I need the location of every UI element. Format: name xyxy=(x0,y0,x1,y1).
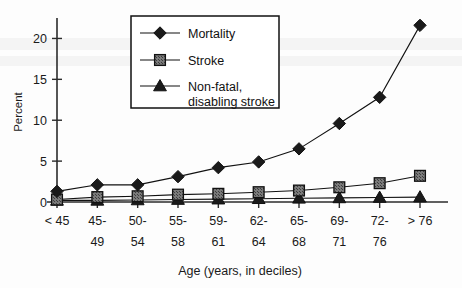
data-point-square xyxy=(173,189,184,200)
y-tick-label: 10 xyxy=(33,114,47,128)
data-point-triangle xyxy=(373,191,386,202)
y-tick-label: 5 xyxy=(40,155,47,169)
x-category-label-line2: 49 xyxy=(90,235,104,249)
data-point-square xyxy=(415,170,426,181)
x-category-label-line2: 61 xyxy=(211,235,225,249)
data-point-square xyxy=(155,55,166,66)
y-tick-label: 0 xyxy=(40,196,47,210)
x-category-label: 69- xyxy=(330,214,348,228)
x-category-label: 50- xyxy=(129,214,147,228)
x-category-label-line2: 76 xyxy=(373,235,387,249)
series-line xyxy=(57,197,420,200)
x-category-label-line2: 68 xyxy=(292,235,306,249)
x-category-label: 62- xyxy=(250,214,268,228)
data-point-diamond xyxy=(212,161,224,173)
data-point-diamond xyxy=(131,179,143,191)
data-point-square xyxy=(294,185,305,196)
legend-label-line2: disabling stroke xyxy=(188,95,275,109)
x-axis-title: Age (years, in deciles) xyxy=(178,264,302,278)
legend-label: Mortality xyxy=(188,27,236,41)
data-point-diamond xyxy=(373,91,385,103)
x-category-label-line2: 54 xyxy=(131,235,145,249)
x-category-label-line2: 64 xyxy=(252,235,266,249)
data-point-square xyxy=(253,187,264,198)
y-axis-title: Percent xyxy=(12,91,24,131)
x-category-label: > 76 xyxy=(408,214,433,228)
legend-label: Non-fatal, xyxy=(188,80,242,94)
data-point-diamond xyxy=(172,170,184,182)
x-category-label: 45- xyxy=(88,214,106,228)
x-category-label-line2: 71 xyxy=(332,235,346,249)
y-axis: 05101520 xyxy=(33,18,62,210)
series-line xyxy=(57,176,420,200)
data-point-square xyxy=(132,191,143,202)
data-point-square xyxy=(92,192,103,203)
legend: MortalityStrokeNon-fatal,disabling strok… xyxy=(131,16,279,109)
x-category-labels: < 4545-4950-5455-5859-6162-6465-6869-717… xyxy=(45,214,433,249)
data-point-diamond xyxy=(333,117,345,129)
data-point-square xyxy=(374,178,385,189)
legend-label: Stroke xyxy=(188,54,224,68)
chart-container: 05101520 Percent Age (years, in deciles)… xyxy=(0,0,462,288)
y-tick-label: 15 xyxy=(33,73,47,87)
x-category-label: 65- xyxy=(290,214,308,228)
x-category-label: 59- xyxy=(209,214,227,228)
data-point-square xyxy=(213,188,224,199)
x-axis xyxy=(47,202,448,208)
data-point-diamond xyxy=(252,156,264,168)
x-tick-group xyxy=(57,202,420,208)
data-point-triangle xyxy=(414,191,427,202)
y-tick-label: 20 xyxy=(33,32,47,46)
x-category-label: 72- xyxy=(371,214,389,228)
x-category-label-line2: 58 xyxy=(171,235,185,249)
data-point-square xyxy=(334,182,345,193)
chart-svg: 05101520 Percent Age (years, in deciles)… xyxy=(0,0,462,288)
data-point-diamond xyxy=(91,179,103,191)
x-category-label: 55- xyxy=(169,214,187,228)
data-point-diamond xyxy=(414,19,426,31)
x-category-label: < 45 xyxy=(45,214,70,228)
data-point-diamond xyxy=(293,143,305,155)
